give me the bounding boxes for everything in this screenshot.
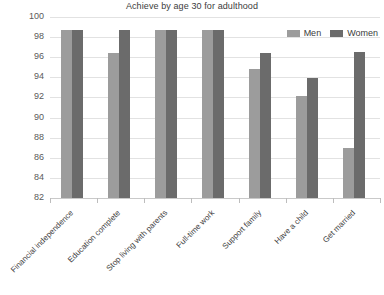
bar-women-1[interactable] xyxy=(119,30,130,198)
y-axis-tick-label: 82 xyxy=(4,193,44,202)
y-axis-tick-label: 86 xyxy=(4,153,44,162)
bar-women-2[interactable] xyxy=(166,30,177,198)
gridline xyxy=(50,198,380,199)
bar-men-1[interactable] xyxy=(108,53,119,198)
y-axis-tick-label: 98 xyxy=(4,32,44,41)
bar-men-5[interactable] xyxy=(296,96,307,198)
plot-area: 828486889092949698100Financial independe… xyxy=(50,17,380,198)
legend-entry-men[interactable]: Men xyxy=(287,28,322,38)
x-axis-tick xyxy=(144,198,145,203)
bar-women-5[interactable] xyxy=(307,78,318,198)
bar-women-3[interactable] xyxy=(213,30,224,198)
x-axis-tick xyxy=(97,198,98,203)
y-axis-tick-label: 96 xyxy=(4,52,44,61)
x-axis-label-1: Education complete xyxy=(38,208,122,292)
chart-legend: Men Women xyxy=(287,28,378,38)
x-axis-tick xyxy=(333,198,334,203)
gridline xyxy=(50,17,380,18)
y-axis-tick-label: 88 xyxy=(4,133,44,142)
x-axis-tick xyxy=(50,198,51,203)
legend-label-women: Women xyxy=(347,28,378,38)
bar-men-2[interactable] xyxy=(155,30,166,198)
bar-women-4[interactable] xyxy=(260,53,271,198)
chart-title: Achieve by age 30 for adulthood xyxy=(0,1,384,11)
men-swatch-icon xyxy=(287,30,300,37)
x-axis-tick xyxy=(286,198,287,203)
bar-men-3[interactable] xyxy=(202,30,213,198)
bar-chart: Achieve by age 30 for adulthood 82848688… xyxy=(0,0,384,295)
y-axis-tick-label: 92 xyxy=(4,92,44,101)
x-axis-tick xyxy=(191,198,192,203)
y-axis-tick-label: 94 xyxy=(4,72,44,81)
legend-entry-women[interactable]: Women xyxy=(330,28,378,38)
x-axis-tick xyxy=(380,198,381,203)
x-axis-label-2: Stop living with parents xyxy=(85,208,169,292)
y-axis-tick-label: 100 xyxy=(4,12,44,21)
x-axis-label-5: Have a child xyxy=(226,208,310,292)
x-axis-label-6: Get married xyxy=(273,208,357,292)
bar-women-0[interactable] xyxy=(72,30,83,198)
legend-label-men: Men xyxy=(304,28,322,38)
y-axis-tick-label: 90 xyxy=(4,113,44,122)
bar-men-4[interactable] xyxy=(249,69,260,198)
bar-women-6[interactable] xyxy=(354,52,365,198)
x-axis-label-3: Full-time work xyxy=(132,208,216,292)
women-swatch-icon xyxy=(330,30,343,37)
x-axis-label-0: Financial independence xyxy=(0,208,75,292)
y-axis-tick-label: 84 xyxy=(4,173,44,182)
x-axis-label-4: Support family xyxy=(179,208,263,292)
x-axis-tick xyxy=(239,198,240,203)
bar-men-0[interactable] xyxy=(61,30,72,198)
bar-men-6[interactable] xyxy=(343,148,354,198)
